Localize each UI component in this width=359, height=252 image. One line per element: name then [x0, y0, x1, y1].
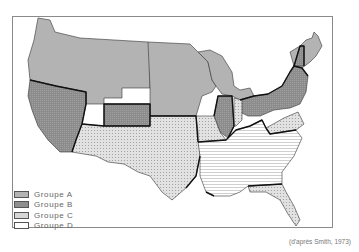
legend-label: Groupe D — [34, 221, 73, 230]
group-c-virginia — [266, 112, 304, 134]
legend-item-group-a: Groupe A — [14, 189, 73, 199]
legend-label: Groupe B — [34, 200, 73, 209]
legend-label: Groupe C — [34, 211, 73, 220]
legend-item-group-b: Groupe B — [14, 200, 73, 210]
legend-item-group-c: Groupe C — [14, 210, 73, 220]
swatch-group-b — [14, 201, 29, 208]
legend-label: Groupe A — [34, 190, 73, 199]
source-citation: (d'après Smith, 1973) — [289, 238, 351, 245]
swatch-group-a — [14, 191, 29, 198]
group-c-indiana — [234, 98, 242, 126]
group-c-florida — [248, 184, 300, 226]
map-legend: Groupe A Groupe B Groupe C Groupe D — [14, 189, 73, 231]
group-b-colorado — [104, 104, 150, 126]
group-c-southwest — [72, 116, 200, 200]
swatch-group-c — [14, 212, 29, 219]
swatch-group-d — [14, 222, 29, 229]
legend-item-group-d: Groupe D — [14, 221, 73, 231]
